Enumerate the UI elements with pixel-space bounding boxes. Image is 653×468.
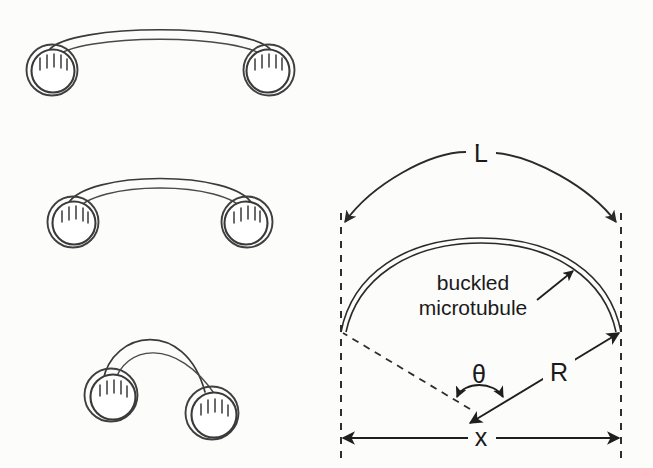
figure-root: L buckled microtubule θ R x L x R — [0, 0, 653, 468]
diagram-canvas: L buckled microtubule θ R x L x R — [0, 0, 653, 468]
label-arc-length-L-top: L — [474, 139, 488, 167]
panel-3-bead-left — [85, 369, 138, 422]
annotation-pointer-arrow — [537, 271, 573, 300]
panel-3-buckled-pair — [85, 340, 239, 440]
panel-2-microtubule — [68, 179, 252, 213]
label-chord-x-top: x — [475, 423, 488, 451]
label-annotation-line2: microtubule — [419, 296, 528, 319]
panel-3-bead-right — [186, 387, 239, 440]
bead-inner-ring — [247, 50, 290, 93]
geometry-panel: L buckled microtubule θ R x L x R — [341, 139, 621, 462]
label-annotation-line1: buckled — [437, 271, 509, 294]
panel-1-buckled-pair — [27, 30, 295, 96]
arc-length-left-half — [345, 152, 466, 222]
bead-inner-ring — [53, 202, 96, 245]
bead-inner-ring — [91, 375, 136, 420]
bead-inner-ring — [192, 393, 237, 438]
panel-2-mt-outer-wall — [68, 179, 252, 205]
panel-1-mt-inner-wall — [54, 39, 266, 58]
panel-1-bead-left — [27, 45, 78, 96]
label-radius-R-top: R — [550, 358, 568, 386]
panel-2-bead-right — [222, 197, 273, 248]
label-angle-theta: θ — [472, 360, 486, 388]
panel-1-bead-right — [244, 45, 295, 96]
panel-2-buckled-pair — [48, 179, 273, 248]
radius-left-dashed — [343, 333, 470, 409]
panel-2-mt-inner-wall — [75, 188, 245, 212]
panel-2-bead-left — [48, 197, 99, 248]
bead-inner-ring — [32, 50, 75, 93]
panel-1-microtubule — [49, 30, 271, 58]
bead-inner-ring — [225, 202, 268, 245]
arc-length-right-half — [496, 153, 616, 222]
